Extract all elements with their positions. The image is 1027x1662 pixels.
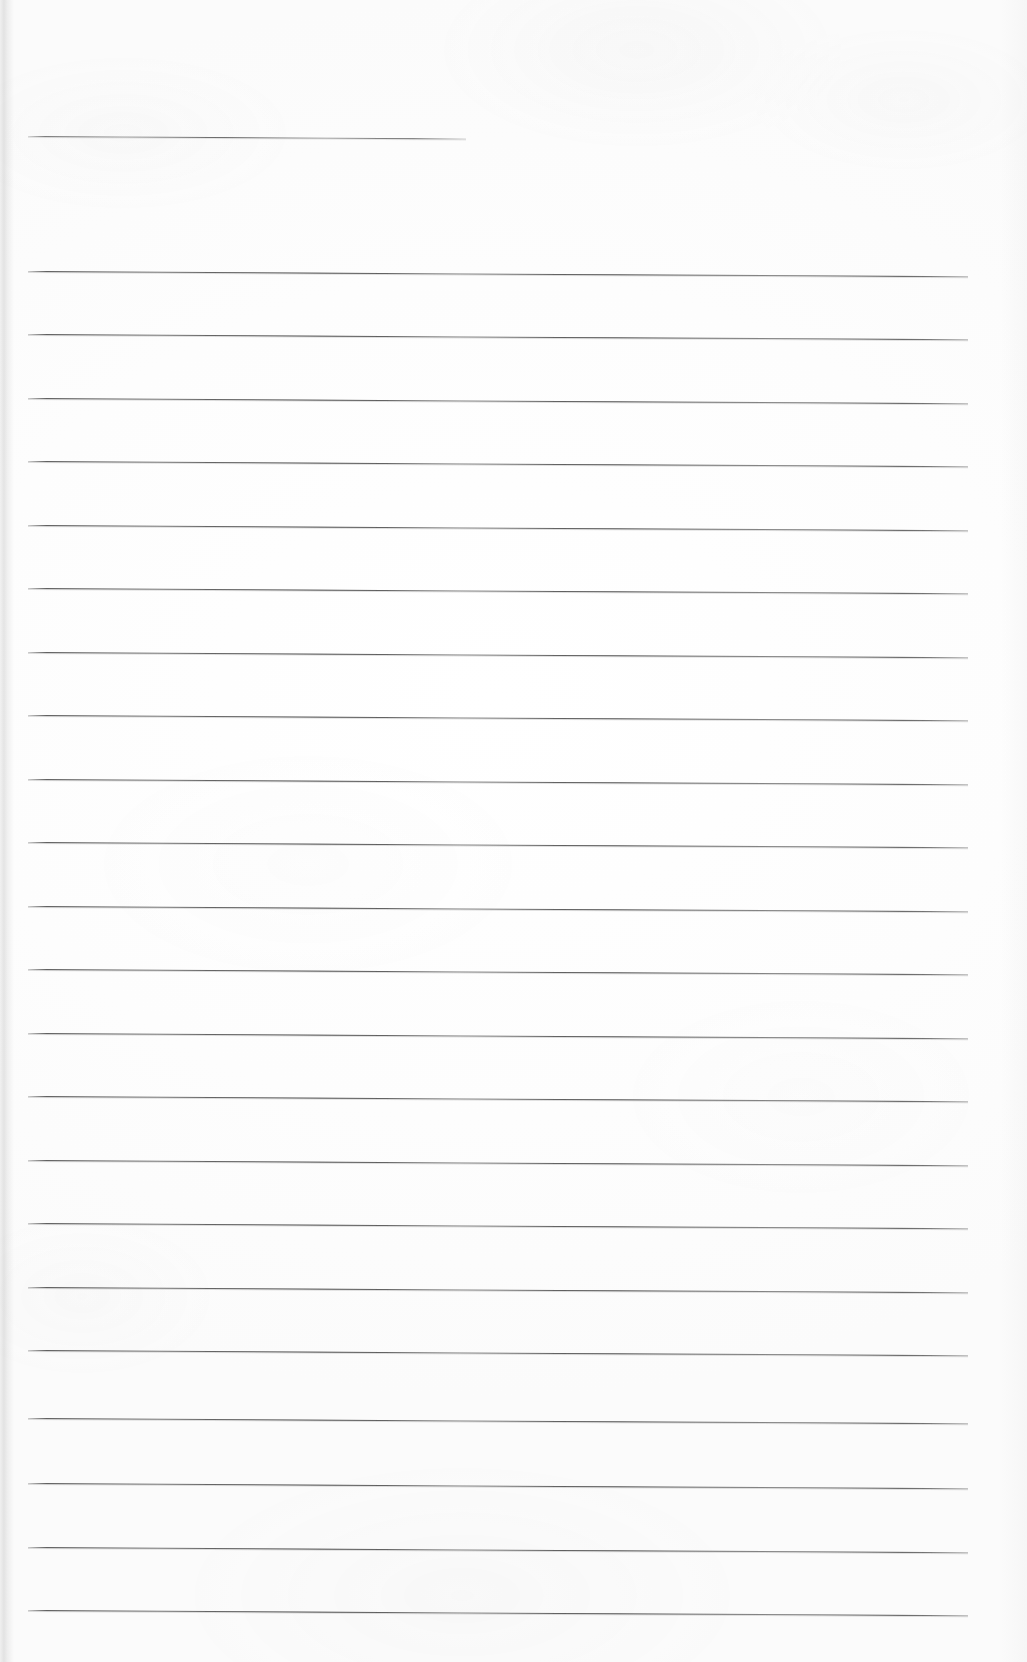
- header-rule: [28, 136, 466, 139]
- rule-11: [28, 906, 968, 912]
- rule-10: [28, 842, 968, 848]
- rule-18: [28, 1350, 968, 1356]
- rule-9: [28, 779, 968, 785]
- rule-3: [28, 398, 968, 404]
- rule-17: [28, 1287, 968, 1293]
- rule-13: [28, 1033, 968, 1039]
- rule-1: [28, 271, 968, 277]
- rule-2: [28, 334, 968, 340]
- rule-16: [28, 1223, 968, 1229]
- scanned-page: [0, 0, 1027, 1662]
- ruled-lines-layer: [0, 0, 1027, 1662]
- rule-20: [28, 1483, 968, 1489]
- rule-5: [28, 525, 968, 531]
- rule-4: [28, 461, 968, 467]
- rule-19: [28, 1418, 968, 1424]
- rule-21: [28, 1547, 968, 1553]
- rule-7: [28, 652, 968, 658]
- rule-6: [28, 588, 968, 594]
- rule-15: [28, 1160, 968, 1166]
- rule-22: [28, 1610, 968, 1616]
- rule-8: [28, 715, 968, 721]
- rule-12: [28, 969, 968, 975]
- rule-14: [28, 1096, 968, 1102]
